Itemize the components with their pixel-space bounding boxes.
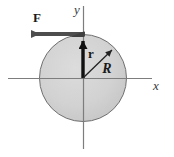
physics-diagram-figure: x y F r R: [0, 0, 174, 157]
diagram-canvas: x y F r R: [0, 0, 174, 157]
position-vector-label: r: [88, 46, 94, 61]
x-axis-label: x: [152, 78, 159, 93]
force-vector-label: F: [33, 10, 41, 25]
radius-label: R: [101, 61, 111, 76]
y-axis-label: y: [72, 2, 80, 17]
